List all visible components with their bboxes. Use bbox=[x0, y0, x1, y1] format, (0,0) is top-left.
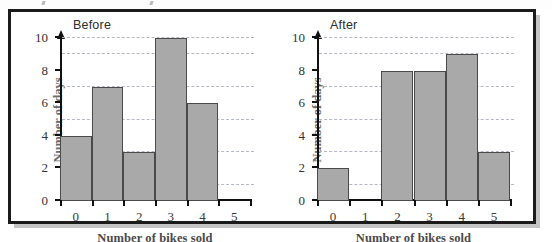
x-axis-tick bbox=[123, 200, 125, 206]
x-axis-tick-label: 0 bbox=[330, 209, 337, 225]
x-axis-tick bbox=[381, 200, 383, 206]
x-axis-tick-label: 5 bbox=[231, 209, 238, 225]
y-axis-tick bbox=[312, 101, 319, 103]
bar bbox=[187, 103, 219, 201]
y-axis-tick bbox=[312, 36, 319, 38]
chart-title-before: Before bbox=[73, 18, 111, 32]
plot-area-before: Number of days Number of bikes sold 0246… bbox=[60, 38, 250, 201]
gridline bbox=[319, 53, 514, 54]
chart-title-after: After bbox=[330, 18, 357, 32]
x-axis-tick bbox=[446, 200, 448, 206]
figure-inner: Before Number of days Number of bikes so… bbox=[11, 12, 533, 221]
scan-speck bbox=[149, 1, 153, 5]
x-axis-tick-label: 4 bbox=[459, 209, 466, 225]
y-axis-tick-label: 4 bbox=[299, 128, 306, 144]
x-axis-tick bbox=[187, 200, 189, 206]
gridline bbox=[319, 37, 514, 38]
x-axis-tick bbox=[92, 200, 94, 206]
x-axis-tick bbox=[60, 200, 62, 206]
bar bbox=[155, 38, 187, 201]
x-axis-tick-label: 2 bbox=[136, 209, 143, 225]
chart-panel-before: Before Number of days Number of bikes so… bbox=[11, 12, 272, 221]
x-axis-tick bbox=[218, 200, 220, 206]
y-axis-tick-label: 6 bbox=[42, 95, 49, 111]
bar bbox=[414, 71, 446, 201]
x-axis-tick-label: 2 bbox=[394, 209, 401, 225]
bar bbox=[123, 152, 155, 201]
y-axis-tick-label: 6 bbox=[299, 95, 306, 111]
scan-artifact-strip bbox=[0, 0, 552, 9]
x-axis-tick bbox=[478, 200, 480, 206]
bar bbox=[60, 136, 92, 201]
plot-area-after: Number of days Number of bikes sold 0246… bbox=[317, 38, 510, 201]
y-axis-tick-label: 8 bbox=[299, 63, 306, 79]
y-axis-tick bbox=[55, 101, 62, 103]
bar bbox=[446, 54, 478, 201]
y-axis-tick-label: 8 bbox=[42, 63, 49, 79]
x-axis-tick bbox=[155, 200, 157, 206]
chart-panel-after: After Number of days Number of bikes sol… bbox=[272, 12, 533, 221]
y-axis-tick bbox=[55, 69, 62, 71]
x-axis-tick-label: 3 bbox=[168, 209, 175, 225]
x-axis-tick bbox=[414, 200, 416, 206]
x-axis-tick-label: 5 bbox=[491, 209, 498, 225]
scan-speck bbox=[41, 1, 45, 5]
figure-frame: Before Number of days Number of bikes so… bbox=[8, 9, 536, 224]
y-axis-tick-label: 2 bbox=[42, 160, 49, 176]
x-axis-tick bbox=[349, 200, 351, 206]
bar bbox=[92, 87, 124, 201]
bar bbox=[381, 71, 413, 201]
x-axis-title-before: Number of bikes sold bbox=[60, 231, 250, 242]
x-axis-tick-label: 0 bbox=[73, 209, 80, 225]
x-axis-title-after: Number of bikes sold bbox=[317, 231, 510, 242]
y-axis-tick bbox=[312, 69, 319, 71]
y-axis-tick-label: 0 bbox=[299, 193, 306, 209]
x-axis-tick-label: 1 bbox=[362, 209, 369, 225]
x-axis-tick-label: 3 bbox=[426, 209, 433, 225]
y-axis-tick-label: 10 bbox=[292, 30, 305, 46]
bar bbox=[478, 152, 510, 201]
bar bbox=[317, 168, 349, 201]
y-axis-tick-label: 4 bbox=[42, 128, 49, 144]
y-axis-tick bbox=[312, 134, 319, 136]
x-axis-tick bbox=[250, 200, 252, 206]
x-axis-tick-label: 4 bbox=[199, 209, 206, 225]
y-axis-tick-label: 2 bbox=[299, 160, 306, 176]
y-axis-tick-label: 10 bbox=[35, 30, 48, 46]
x-axis-tick bbox=[510, 200, 512, 206]
x-axis-tick bbox=[317, 200, 319, 206]
y-axis-tick bbox=[55, 36, 62, 38]
x-axis-tick-label: 1 bbox=[104, 209, 111, 225]
y-axis-tick-label: 0 bbox=[42, 193, 49, 209]
